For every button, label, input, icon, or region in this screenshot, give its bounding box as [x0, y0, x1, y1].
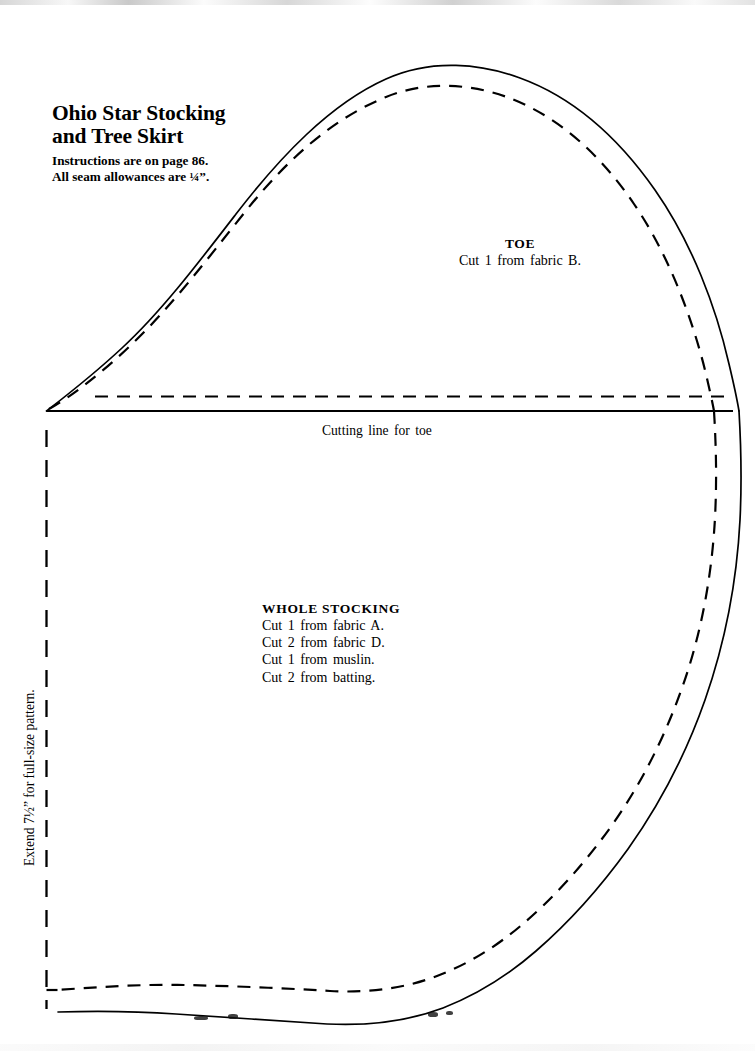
seam-allowance-note: All seam allowances are ¼”. [52, 169, 312, 185]
cutting-line-label: Cutting line for toe [322, 423, 432, 439]
extend-pattern-note-text: Extend 7½” for full-size pattern. [22, 596, 38, 866]
whole-stocking-cut-line: Cut 2 from batting. [262, 669, 492, 686]
scan-artifact-bottom [0, 1044, 755, 1051]
scan-blotch [446, 1011, 453, 1015]
stocking-seam-line [57, 411, 716, 991]
toe-cut-instruction: Cut 1 from fabric B. [410, 252, 630, 269]
whole-stocking-cut-line: Cut 1 from muslin. [262, 651, 492, 668]
page-title-block: Ohio Star Stocking and Tree Skirt Instru… [52, 102, 312, 184]
stocking-cutting-outline [58, 411, 741, 1024]
scan-blotch [428, 1012, 438, 1017]
toe-label-block: TOE Cut 1 from fabric B. [410, 236, 630, 269]
page-title-line-2: and Tree Skirt [52, 125, 312, 148]
page-title-line-1: Ohio Star Stocking [52, 102, 312, 125]
whole-stocking-cut-line: Cut 1 from fabric A. [262, 617, 492, 634]
whole-stocking-cut-line: Cut 2 from fabric D. [262, 634, 492, 651]
whole-stocking-label-block: WHOLE STOCKING Cut 1 from fabric A. Cut … [262, 600, 492, 686]
scan-blotch [194, 1016, 208, 1020]
whole-stocking-heading: WHOLE STOCKING [262, 600, 492, 617]
pattern-page: Ohio Star Stocking and Tree Skirt Instru… [0, 0, 755, 1051]
scan-artifact-top [0, 0, 755, 5]
toe-heading: TOE [410, 236, 630, 252]
instructions-note: Instructions are on page 86. [52, 153, 312, 169]
scan-blotch [228, 1014, 238, 1019]
